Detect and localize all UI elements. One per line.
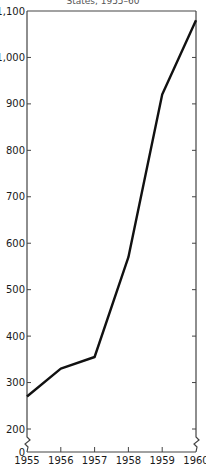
y-axis-left [25,11,30,452]
series-group [27,20,196,396]
x-tick-label: 1956 [48,455,73,466]
y-tick-label: 700 [6,191,25,202]
chart-title: States, 1955–60 [66,0,139,6]
y-tick-label: 1,100 [0,6,25,17]
series-line [27,20,196,396]
y-tick-label: 800 [6,145,25,156]
x-tick-label: 1957 [82,455,107,466]
y-axis-ticks: 02003004005006007008009001,0001,100 [0,6,196,458]
y-tick-label: 400 [6,331,25,342]
x-tick-label: 1959 [149,455,174,466]
y-tick-label: 200 [6,424,25,435]
y-axis-right [194,11,199,452]
x-tick-label: 1958 [116,455,141,466]
y-tick-label: 300 [6,377,25,388]
y-tick-label: 1,000 [0,52,25,63]
line-chart: States, 1955–60 020030040050060070080090… [0,0,206,466]
y-tick-label: 900 [6,98,25,109]
x-axis-ticks: 195519561957195819591960 [14,447,206,466]
x-tick-label: 1960 [183,455,206,466]
axes [25,11,199,452]
y-tick-label: 500 [6,284,25,295]
x-tick-label: 1955 [14,455,39,466]
y-tick-label: 600 [6,238,25,249]
